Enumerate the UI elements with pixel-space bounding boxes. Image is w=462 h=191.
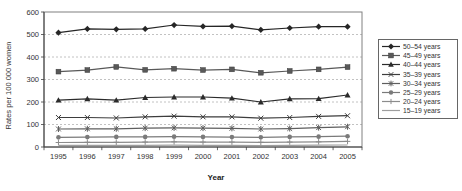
legend-plus-marker-icon xyxy=(382,97,401,106)
series-marker-diamond-icon xyxy=(229,23,235,29)
series-marker-square-icon xyxy=(114,65,119,70)
legend-star-marker-icon xyxy=(382,79,401,88)
line-chart-figure: 0100200300400500600199519961997199819992… xyxy=(0,0,462,191)
legend-item: 35–39 years xyxy=(382,70,454,79)
series-marker-circle-icon xyxy=(114,135,119,140)
x-tick-label: 2000 xyxy=(195,152,212,161)
x-tick-label: 2005 xyxy=(339,152,356,161)
y-tick-label: 200 xyxy=(26,98,39,107)
series-marker-circle-icon xyxy=(85,135,90,140)
legend-label: 20–24 years xyxy=(403,97,440,106)
series-marker-diamond-icon xyxy=(171,22,177,28)
series-marker-diamond-icon xyxy=(200,23,206,29)
x-axis-title: Year xyxy=(208,173,225,182)
series-marker-diamond-icon xyxy=(142,26,148,32)
series-marker-circle-icon xyxy=(345,134,350,139)
legend-item: 20–24 years xyxy=(382,97,454,106)
series-marker-circle-icon xyxy=(230,135,235,140)
series-marker-circle-icon xyxy=(316,134,321,139)
x-tick-label: 1997 xyxy=(108,152,125,161)
y-axis-title: Rates per 100 000 women xyxy=(4,26,15,146)
series-marker-circle-icon xyxy=(287,135,292,140)
series-marker-square-icon xyxy=(201,68,206,73)
series-marker-diamond-icon xyxy=(84,26,90,32)
legend-label: 15–19 years xyxy=(403,106,440,115)
legend-item: 30–34 years xyxy=(382,79,454,88)
series-marker-circle-icon xyxy=(56,135,61,140)
x-tick-label: 1996 xyxy=(79,152,96,161)
series-marker-diamond-icon xyxy=(287,25,293,31)
series-marker-square-icon xyxy=(258,70,263,75)
legend-item: 15–19 years xyxy=(382,106,454,115)
x-tick-label: 1995 xyxy=(50,152,67,161)
legend-item: 45–49 years xyxy=(382,51,454,60)
series-marker-diamond-icon xyxy=(344,24,350,30)
series-marker-circle-icon xyxy=(172,134,177,139)
legend-item: 40–44 years xyxy=(382,60,454,69)
legend-square-marker-icon xyxy=(382,51,401,60)
legend-label: 40–44 years xyxy=(403,60,440,69)
y-tick-label: 300 xyxy=(26,75,39,84)
legend-circle-marker-icon xyxy=(382,88,401,97)
legend-label: 50–54 years xyxy=(403,42,440,51)
series-marker-square-icon xyxy=(85,68,90,73)
legend-label: 35–39 years xyxy=(403,70,440,79)
series-marker-circle-icon xyxy=(143,135,148,140)
y-tick-label: 0 xyxy=(35,143,39,152)
series-line-15–19-years xyxy=(59,145,348,146)
legend-item: 50–54 years xyxy=(382,42,454,51)
x-tick-label: 2001 xyxy=(224,152,241,161)
series-marker-circle-icon xyxy=(259,135,264,140)
series-marker-square-icon xyxy=(143,67,148,72)
series-marker-square-icon xyxy=(345,65,350,70)
legend-x-marker-icon xyxy=(382,70,401,79)
legend: 50–54 years45–49 years40–44 years35–39 y… xyxy=(378,39,458,119)
series-marker-diamond-icon xyxy=(258,27,264,33)
series-marker-diamond-icon xyxy=(316,24,322,30)
series-marker-square-icon xyxy=(316,67,321,72)
series-marker-diamond-icon xyxy=(113,26,119,32)
x-tick-label: 1998 xyxy=(137,152,154,161)
legend-diamond-marker-icon xyxy=(382,42,401,51)
legend-triangle-marker-icon xyxy=(382,60,401,69)
y-tick-label: 400 xyxy=(26,53,39,62)
series-marker-square-icon xyxy=(172,66,177,71)
x-tick-label: 2004 xyxy=(310,152,327,161)
series-marker-circle-icon xyxy=(201,135,206,140)
legend-label: 25–29 years xyxy=(403,88,440,97)
y-tick-label: 500 xyxy=(26,30,39,39)
legend-label: 30–34 years xyxy=(403,79,440,88)
x-tick-label: 2002 xyxy=(252,152,269,161)
legend-item: 25–29 years xyxy=(382,88,454,97)
series-marker-square-icon xyxy=(230,67,235,72)
x-tick-label: 2003 xyxy=(281,152,298,161)
series-marker-square-icon xyxy=(56,69,61,74)
legend-label: 45–49 years xyxy=(403,51,440,60)
series-marker-square-icon xyxy=(287,69,292,74)
x-tick-label: 1999 xyxy=(166,152,183,161)
y-tick-label: 100 xyxy=(26,120,39,129)
y-tick-label: 600 xyxy=(26,8,39,17)
legend-none-marker-icon xyxy=(382,106,401,115)
